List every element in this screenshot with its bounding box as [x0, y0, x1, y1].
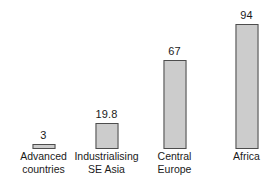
bar-value-label: 19.8 [95, 108, 117, 120]
bar-chart: 3 19.8 67 94 Advanced countr [0, 0, 276, 188]
bar-column-africa[interactable]: 94 [235, 9, 258, 149]
bar-column-central-europe[interactable]: 67 [163, 45, 186, 149]
bar-rect[interactable] [32, 144, 55, 149]
category-labels: Advanced countries Industrialising SE As… [0, 150, 276, 188]
bar-column-advanced-countries[interactable]: 3 [32, 129, 55, 149]
plot-area: 3 19.8 67 94 [0, 0, 276, 149]
category-label-line: Africa [203, 150, 276, 163]
bar-value-label: 3 [40, 129, 46, 141]
category-label-line: Europe [131, 163, 218, 176]
category-label-africa: Africa [203, 150, 276, 163]
bar-slot-3: 94 [203, 0, 276, 149]
bar-rect[interactable] [235, 24, 258, 149]
bar-column-industrialising-se-asia[interactable]: 19.8 [95, 108, 118, 149]
bar-rect[interactable] [163, 60, 186, 149]
bar-value-label: 67 [168, 45, 181, 57]
bar-rect[interactable] [95, 123, 118, 149]
bar-value-label: 94 [240, 9, 253, 21]
